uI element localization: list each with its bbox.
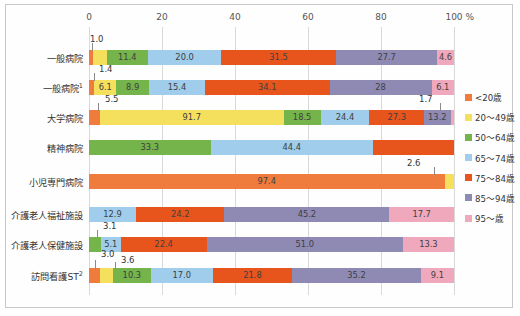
legend-item[interactable]: <20歳 [465,91,517,103]
category-footnote-marker: 2 [79,269,83,277]
segment-value-label: 6.1 [436,83,449,91]
legend-label: 75～84歳 [475,172,515,184]
bar-segment[interactable]: 17.7 [389,207,454,222]
chart-row[interactable]: 小児専門病院97.4 [89,174,454,189]
stacked-bar: 5.122.451.013.3 [89,237,454,252]
stacked-bar: 11.420.031.527.74.6 [89,50,454,65]
segment-value-label: 8.9 [126,83,139,91]
callout-leader-line [95,260,96,269]
legend-item[interactable]: 75～84歳 [465,172,517,184]
bar-segment[interactable]: 51.0 [207,237,403,252]
segment-value-label: 35.2 [347,271,365,279]
legend-item[interactable]: 85～94歳 [465,192,517,204]
bar-segment[interactable]: 6.1 [432,80,454,95]
bar-segment[interactable]: 35.2 [292,268,420,283]
segment-callout-label: 1.7 [419,94,433,104]
legend-item[interactable]: 20～49歳 [465,111,517,123]
bar-segment[interactable]: 27.3 [369,110,424,125]
chart-row[interactable]: 訪問看護ST210.317.021.835.29.1 [89,268,454,283]
stacked-bar: 97.4 [89,174,454,189]
chart-row[interactable]: 介護老人保健施設5.122.451.013.3 [89,237,454,252]
segment-value-label: 31.5 [269,53,287,61]
segment-value-label: 15.4 [168,83,186,91]
gridline-40 [235,27,236,295]
segment-callout-label: 5.5 [105,94,119,104]
chart-row[interactable]: 介護老人福祉施設12.924.245.217.7 [89,207,454,222]
bar-segment[interactable]: 17.0 [151,268,213,283]
bar-segment[interactable]: 45.2 [224,207,389,222]
bar-segment[interactable] [89,110,100,125]
chart-row[interactable]: 精神病院33.344.4 [89,140,454,155]
bar-segment[interactable]: 24.4 [321,110,370,125]
y-axis-category-label: 介護老人保健施設 [11,238,83,252]
bar-segment[interactable]: 18.5 [284,110,321,125]
bar-segment[interactable]: 97.4 [89,174,445,189]
bar-segment[interactable]: 4.6 [437,50,454,65]
bar-segment[interactable]: 9.1 [421,268,454,283]
legend-item[interactable]: 65～74歳 [465,152,517,164]
segment-value-label: 22.4 [154,240,172,248]
legend-color-swatch [465,194,472,201]
bar-segment[interactable] [89,268,100,283]
bar-segment[interactable]: 10.3 [113,268,151,283]
segment-value-label: 27.7 [377,53,395,61]
x-axis-tick-label: 0 [86,12,92,22]
bar-segment[interactable] [89,237,101,252]
bar-segment[interactable]: 11.4 [107,50,149,65]
bar-segment[interactable]: 12.9 [89,207,136,222]
bar-segment[interactable] [373,140,454,155]
callout-leader-line [98,103,99,111]
bar-segment[interactable]: 20.0 [148,50,221,65]
x-axis-tick-label: 20 [156,12,167,22]
bar-segment[interactable]: 13.2 [424,110,450,125]
bar-segment[interactable]: 13.3 [403,237,454,252]
legend-item[interactable]: 50～64歳 [465,131,517,143]
segment-value-label: 28 [375,83,386,91]
bar-segment[interactable]: 31.5 [221,50,336,65]
legend-color-swatch [465,154,472,161]
bar-segment[interactable]: 34.1 [205,80,329,95]
bar-segment[interactable]: 24.2 [136,207,224,222]
stacked-bar: 33.344.4 [89,140,454,155]
legend-color-swatch [465,134,472,141]
chart-row[interactable]: 一般病院11.420.031.527.74.6 [89,50,454,65]
y-axis-category-label: 精神病院 [47,141,83,155]
segment-value-label: 11.4 [118,53,136,61]
segment-value-label: 10.3 [123,271,141,279]
bar-segment[interactable]: 15.4 [149,80,205,95]
segment-value-label: 33.3 [141,143,159,151]
segment-value-label: 12.9 [103,210,121,218]
legend-item[interactable]: 95～歳 [465,212,517,224]
bar-segment[interactable]: 21.8 [213,268,293,283]
y-axis-category-label: 訪問看護ST2 [31,269,83,283]
segment-value-label: 18.5 [293,113,311,121]
bar-segment[interactable]: 44.4 [211,140,373,155]
segment-value-label: 20.0 [175,53,193,61]
y-axis-category-label: 大学病院 [47,111,83,125]
y-axis-category-label: 一般病院 [47,51,83,65]
gridline-100 [454,27,455,295]
segment-value-label: 91.7 [183,113,201,121]
bar-segment[interactable] [445,174,454,189]
bar-segment[interactable]: 27.7 [336,50,437,65]
bar-segment[interactable]: 6.1 [94,80,116,95]
callout-leader-line [92,43,93,51]
y-axis-category-label: 介護老人福祉施設 [11,208,83,222]
bar-segment[interactable]: 33.3 [89,140,211,155]
segment-value-label: 5.1 [104,240,117,248]
bar-segment[interactable]: 8.9 [116,80,148,95]
x-axis-tick-label: 100 % [445,12,474,22]
segment-value-label: 34.1 [258,83,276,91]
segment-callout-label: 3.1 [103,221,117,231]
bar-segment[interactable]: 28 [330,80,432,95]
chart-legend: <20歳20～49歳50～64歳65～74歳75～84歳85～94歳95～歳 [465,91,517,232]
bar-segment[interactable]: 91.7 [100,110,284,125]
chart-row[interactable]: 一般病院16.18.915.434.1286.1 [89,80,454,95]
bar-segment[interactable] [93,50,107,65]
legend-color-swatch [465,174,472,181]
gridline-60 [308,27,309,295]
bar-segment[interactable] [451,110,454,125]
chart-row[interactable]: 大学病院91.718.524.427.313.2 [89,110,454,125]
bar-segment[interactable]: 22.4 [121,237,207,252]
bar-segment[interactable] [100,268,113,283]
